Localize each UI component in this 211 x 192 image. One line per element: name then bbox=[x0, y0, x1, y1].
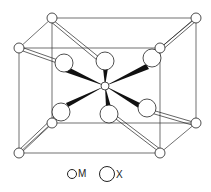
m-atom bbox=[155, 43, 165, 53]
crystal-structure-diagram bbox=[0, 0, 211, 192]
legend-label-m: M bbox=[78, 168, 86, 179]
m-atom bbox=[191, 13, 201, 23]
large-circle-icon bbox=[99, 166, 115, 182]
m-atom bbox=[14, 43, 24, 53]
x-atom bbox=[100, 105, 118, 123]
m-atom bbox=[14, 148, 24, 158]
m-atom bbox=[47, 13, 57, 23]
legend-label-x: X bbox=[116, 169, 123, 180]
m-atom-central bbox=[101, 82, 109, 90]
x-atom bbox=[96, 52, 114, 70]
x-atom bbox=[52, 103, 70, 121]
x-atom bbox=[138, 99, 156, 117]
legend-item-m: M bbox=[67, 168, 86, 179]
legend-item-x: X bbox=[99, 166, 123, 182]
legend: M X bbox=[0, 166, 211, 186]
m-atom bbox=[191, 118, 201, 128]
m-atoms bbox=[14, 13, 201, 158]
m-atom bbox=[155, 148, 165, 158]
x-atom bbox=[55, 54, 73, 72]
m-atom bbox=[47, 118, 57, 128]
small-circle-icon bbox=[67, 169, 77, 179]
